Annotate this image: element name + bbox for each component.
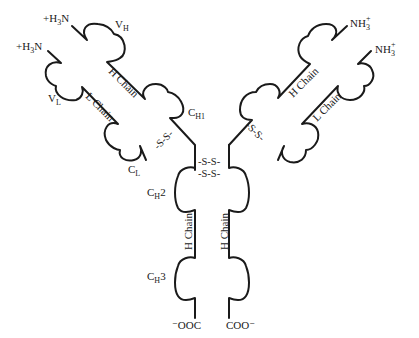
left-heavy-n-terminus: +H3N xyxy=(43,12,69,27)
left-heavy-chain-label: H Chain xyxy=(107,65,142,100)
right-light-chain-label: L Chain xyxy=(310,90,344,124)
stem-left-chain-label: H Chain xyxy=(182,213,194,250)
left-light-n-terminus: +H3N xyxy=(16,40,42,55)
vh-domain-label: VH xyxy=(115,18,129,33)
hinge-disulfide-1: -S-S- xyxy=(198,156,221,167)
left-arm-disulfide: -S-S- xyxy=(152,128,176,152)
svg-text:CH1: CH1 xyxy=(188,106,205,121)
right-arm-disulfide: -S-S- xyxy=(244,120,268,144)
stem-right-chain-label: H Chain xyxy=(218,213,230,250)
ch1-domain-label: CH1 xyxy=(188,106,205,121)
left-c-terminus: ⁻OOC xyxy=(172,319,201,331)
svg-text:NH3+: NH3+ xyxy=(375,40,396,58)
svg-text:CH3: CH3 xyxy=(147,270,166,285)
antibody-diagram: +H3N +H3N NH3+ NH3+ ⁻OOC COO⁻ VH VL CH1 … xyxy=(0,0,419,338)
left-light-chain-label: L Chain xyxy=(84,90,118,124)
right-c-terminus: COO⁻ xyxy=(226,319,255,331)
right-light-n-terminus: NH3+ xyxy=(375,40,396,58)
stem-right-heavy-chain xyxy=(229,145,249,318)
svg-text:+H3N: +H3N xyxy=(16,40,42,55)
svg-text:COO⁻: COO⁻ xyxy=(226,319,255,331)
svg-text:⁻OOC: ⁻OOC xyxy=(172,319,201,331)
svg-text:+H3N: +H3N xyxy=(43,12,69,27)
cl-domain-label: CL xyxy=(128,163,140,178)
ch2-domain-label: CH2 xyxy=(147,186,166,201)
right-heavy-n-terminus: NH3+ xyxy=(350,14,371,32)
ch3-domain-label: CH3 xyxy=(147,270,166,285)
svg-text:VH: VH xyxy=(115,18,129,33)
svg-text:CL: CL xyxy=(128,163,140,178)
hinge-disulfide-2: -S-S- xyxy=(198,168,221,179)
svg-text:CH2: CH2 xyxy=(147,186,166,201)
svg-text:NH3+: NH3+ xyxy=(350,14,371,32)
